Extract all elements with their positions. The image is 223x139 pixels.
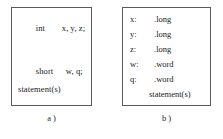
variables-int: x, y, z;: [62, 23, 85, 33]
variables-short: w, q;: [66, 66, 83, 76]
directive-row-y: y: .long: [123, 27, 210, 42]
directive-value-w: .word: [154, 57, 174, 72]
directive-value-z: .long: [154, 42, 171, 57]
code-box-b-inner: x: .long y: .long z: .long w: .word q: .…: [123, 8, 210, 105]
directive-row-q: q: .word: [123, 72, 210, 87]
directive-label-x: x:: [130, 12, 137, 27]
code-box-a-inner: intx, y, z; shortw, q; statement(s): [12, 8, 91, 105]
keyword-short: short: [36, 66, 66, 76]
directive-value-x: .long: [154, 12, 171, 27]
directive-label-w: w:: [130, 57, 139, 72]
directive-label-y: y:: [130, 27, 137, 42]
code-box-a: intx, y, z; shortw, q; statement(s): [11, 7, 92, 106]
statements-placeholder-a: statement(s): [18, 84, 61, 94]
keyword-int: int: [36, 23, 62, 33]
directive-row-w: w: .word: [123, 57, 210, 72]
directive-value-q: .word: [154, 72, 174, 87]
caption-a: a ): [11, 113, 92, 124]
declaration-line-int: intx, y, z;: [18, 13, 85, 43]
directive-label-z: z:: [130, 42, 136, 57]
directive-row-x: x: .long: [123, 12, 210, 27]
directive-row-z: z: .long: [123, 42, 210, 57]
code-box-b: x: .long y: .long z: .long w: .word q: .…: [122, 7, 211, 106]
statements-row-b: statement(s): [123, 87, 210, 102]
figure-container: intx, y, z; shortw, q; statement(s) a ) …: [0, 0, 223, 139]
declaration-line-short: shortw, q;: [18, 56, 83, 86]
directive-value-y: .long: [154, 27, 171, 42]
caption-b: b ): [122, 113, 211, 124]
directive-label-q: q:: [130, 72, 137, 87]
statements-placeholder-b: statement(s): [149, 87, 191, 102]
